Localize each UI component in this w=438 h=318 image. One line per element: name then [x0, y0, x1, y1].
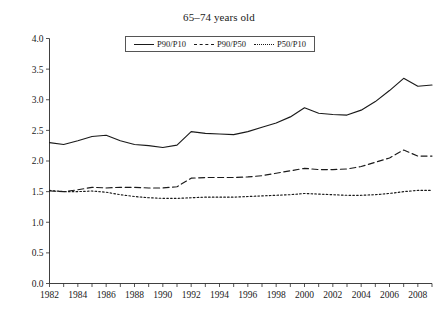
x-tick-label: 2000 — [295, 290, 314, 300]
y-tick-label: 1.0 — [32, 218, 44, 228]
x-axis: 1982198419861988199019921994199619982000… — [40, 284, 432, 300]
series-line-p50-p10 — [50, 190, 433, 198]
x-tick-label: 1996 — [238, 290, 257, 300]
chart-plot-area: 0.00.51.01.52.02.53.03.54.0 198219841986… — [0, 0, 438, 318]
y-tick-label: 2.0 — [32, 156, 44, 166]
data-series-group — [50, 78, 433, 198]
y-axis: 0.00.51.01.52.02.53.03.54.0 — [32, 34, 50, 289]
y-tick-label: 2.5 — [32, 126, 44, 136]
x-tick-label: 1998 — [267, 290, 286, 300]
figure-container: 65–74 years old P90/P10 P90/P50 P50/P10 … — [0, 0, 438, 318]
y-tick-label: 0.0 — [32, 279, 44, 289]
x-tick-label: 1984 — [68, 290, 87, 300]
x-tick-label: 1986 — [97, 290, 116, 300]
series-line-p90-p50 — [50, 150, 433, 192]
x-tick-label: 2002 — [323, 290, 342, 300]
x-tick-label: 2008 — [408, 290, 427, 300]
series-line-p90-p10 — [50, 78, 433, 147]
y-tick-label: 3.0 — [32, 95, 44, 105]
x-tick-label: 1982 — [40, 290, 59, 300]
x-tick-label: 1988 — [125, 290, 144, 300]
y-tick-label: 4.0 — [32, 34, 44, 44]
y-tick-label: 0.5 — [32, 248, 44, 258]
x-tick-label: 1990 — [153, 290, 172, 300]
y-tick-label: 3.5 — [32, 65, 44, 75]
x-tick-label: 2006 — [380, 290, 399, 300]
x-tick-label: 1992 — [182, 290, 201, 300]
x-tick-label: 2004 — [352, 290, 371, 300]
x-tick-label: 1994 — [210, 290, 229, 300]
y-tick-label: 1.5 — [32, 187, 44, 197]
